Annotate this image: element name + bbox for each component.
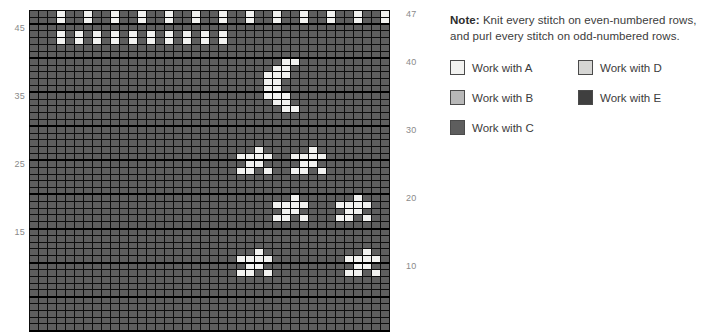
stitch-cell [228,181,237,188]
stitch-cell [75,235,84,242]
stitch-cell [129,24,138,31]
stitch-cell [219,31,228,38]
chart-row [30,154,390,161]
stitch-cell [291,72,300,79]
stitch-cell [102,290,111,297]
stitch-cell [264,242,273,249]
chart-row [30,174,390,181]
stitch-cell [291,290,300,297]
stitch-cell [228,99,237,106]
stitch-cell [363,235,372,242]
stitch-cell [84,263,93,270]
stitch-cell [246,269,255,276]
stitch-cell [156,276,165,283]
stitch-cell [219,11,228,18]
stitch-cell [39,167,48,174]
stitch-cell [111,45,120,52]
stitch-cell [201,215,210,222]
stitch-cell [111,154,120,161]
stitch-cell [273,269,282,276]
stitch-cell [372,160,381,167]
stitch-cell [165,276,174,283]
stitch-cell [120,303,129,310]
stitch-cell [246,229,255,236]
stitch-cell [57,24,66,31]
stitch-cell [93,324,102,331]
stitch-cell [228,126,237,133]
stitch-cell [273,160,282,167]
stitch-cell [246,276,255,283]
stitch-cell [309,249,318,256]
stitch-cell [372,38,381,45]
stitch-cell [57,174,66,181]
stitch-cell [309,38,318,45]
stitch-cell [48,201,57,208]
legend-label: Work with E [600,92,661,104]
stitch-cell [174,99,183,106]
stitch-cell [354,65,363,72]
stitch-cell [183,303,192,310]
stitch-cell [201,45,210,52]
stitch-cell [84,229,93,236]
stitch-cell [363,283,372,290]
stitch-cell [219,263,228,270]
stitch-cell [264,126,273,133]
stitch-cell [156,51,165,58]
stitch-cell [75,269,84,276]
stitch-cell [111,133,120,140]
stitch-cell [363,242,372,249]
legend-item-c: Work with C [450,120,534,135]
stitch-cell [93,222,102,229]
stitch-cell [345,113,354,120]
stitch-cell [273,194,282,201]
stitch-cell [282,222,291,229]
stitch-cell [84,242,93,249]
stitch-cell [318,11,327,18]
stitch-cell [84,290,93,297]
stitch-cell [210,65,219,72]
stitch-cell [237,51,246,58]
stitch-cell [273,249,282,256]
stitch-cell [174,167,183,174]
stitch-cell [228,310,237,317]
stitch-cell [192,126,201,133]
stitch-cell [345,147,354,154]
stitch-cell [39,92,48,99]
stitch-cell [327,290,336,297]
chart-row [30,38,390,45]
stitch-cell [201,147,210,154]
stitch-cell [345,242,354,249]
stitch-cell [183,79,192,86]
stitch-cell [255,38,264,45]
stitch-cell [30,222,39,229]
stitch-cell [309,222,318,229]
stitch-cell [156,160,165,167]
stitch-cell [219,133,228,140]
stitch-cell [210,242,219,249]
stitch-cell [102,303,111,310]
stitch-cell [111,249,120,256]
stitch-cell [318,133,327,140]
stitch-cell [111,242,120,249]
stitch-cell [57,276,66,283]
stitch-cell [102,222,111,229]
stitch-cell [318,65,327,72]
stitch-cell [75,24,84,31]
stitch-cell [255,235,264,242]
stitch-cell [39,174,48,181]
stitch-cell [165,263,174,270]
stitch-cell [318,120,327,127]
stitch-cell [219,147,228,154]
stitch-cell [291,229,300,236]
stitch-cell [255,72,264,79]
stitch-cell [147,140,156,147]
stitch-cell [282,24,291,31]
stitch-cell [318,249,327,256]
chart-row [30,160,390,167]
stitch-cell [120,58,129,65]
stitch-cell [75,249,84,256]
stitch-cell [156,17,165,24]
stitch-cell [237,194,246,201]
stitch-cell [210,263,219,270]
stitch-cell [183,147,192,154]
